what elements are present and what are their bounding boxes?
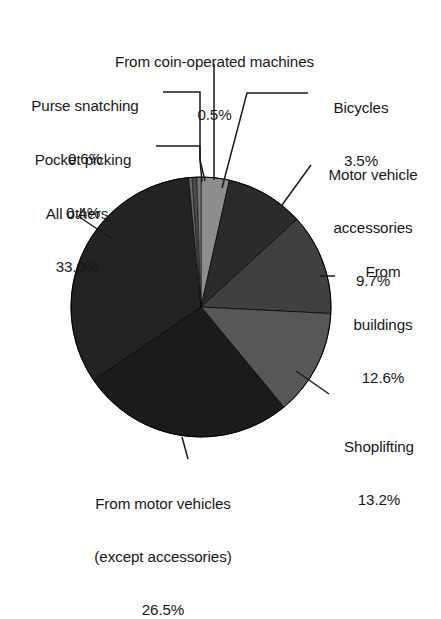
label-all-others-value: 33.0% [12,258,142,276]
label-pocket-picking-name: Pocket picking [10,151,156,169]
leader-line-from-motor-vehicles [182,437,188,459]
label-from-motor-vehicles-value: 26.5% [43,601,283,619]
label-purse-snatching-name: Purse snatching [10,97,160,115]
label-motor-vehicle-accessories-name-line1: Motor vehicle [308,166,438,184]
label-from-buildings-name-line1: From [335,263,431,281]
label-shoplifting: Shoplifting 13.2% [327,403,431,544]
label-from-motor-vehicles-name-line2: (except accessories) [43,548,283,566]
label-bicycles-name: Bicycles [311,99,411,117]
label-shoplifting-value: 13.2% [327,491,431,509]
label-all-others: All others 33.0% [12,170,142,311]
leader-line-motor-vehicle-accessories [282,165,311,205]
label-from-motor-vehicles-name-line1: From motor vehicles [43,495,283,513]
label-from-buildings: From buildings 12.6% [335,228,431,422]
label-from-motor-vehicles: From motor vehicles (except accessories)… [43,460,283,619]
label-all-others-name: All others [12,205,142,223]
label-from-buildings-value: 12.6% [335,369,431,387]
label-from-buildings-name-line2: buildings [335,316,431,334]
label-shoplifting-name: Shoplifting [327,438,431,456]
